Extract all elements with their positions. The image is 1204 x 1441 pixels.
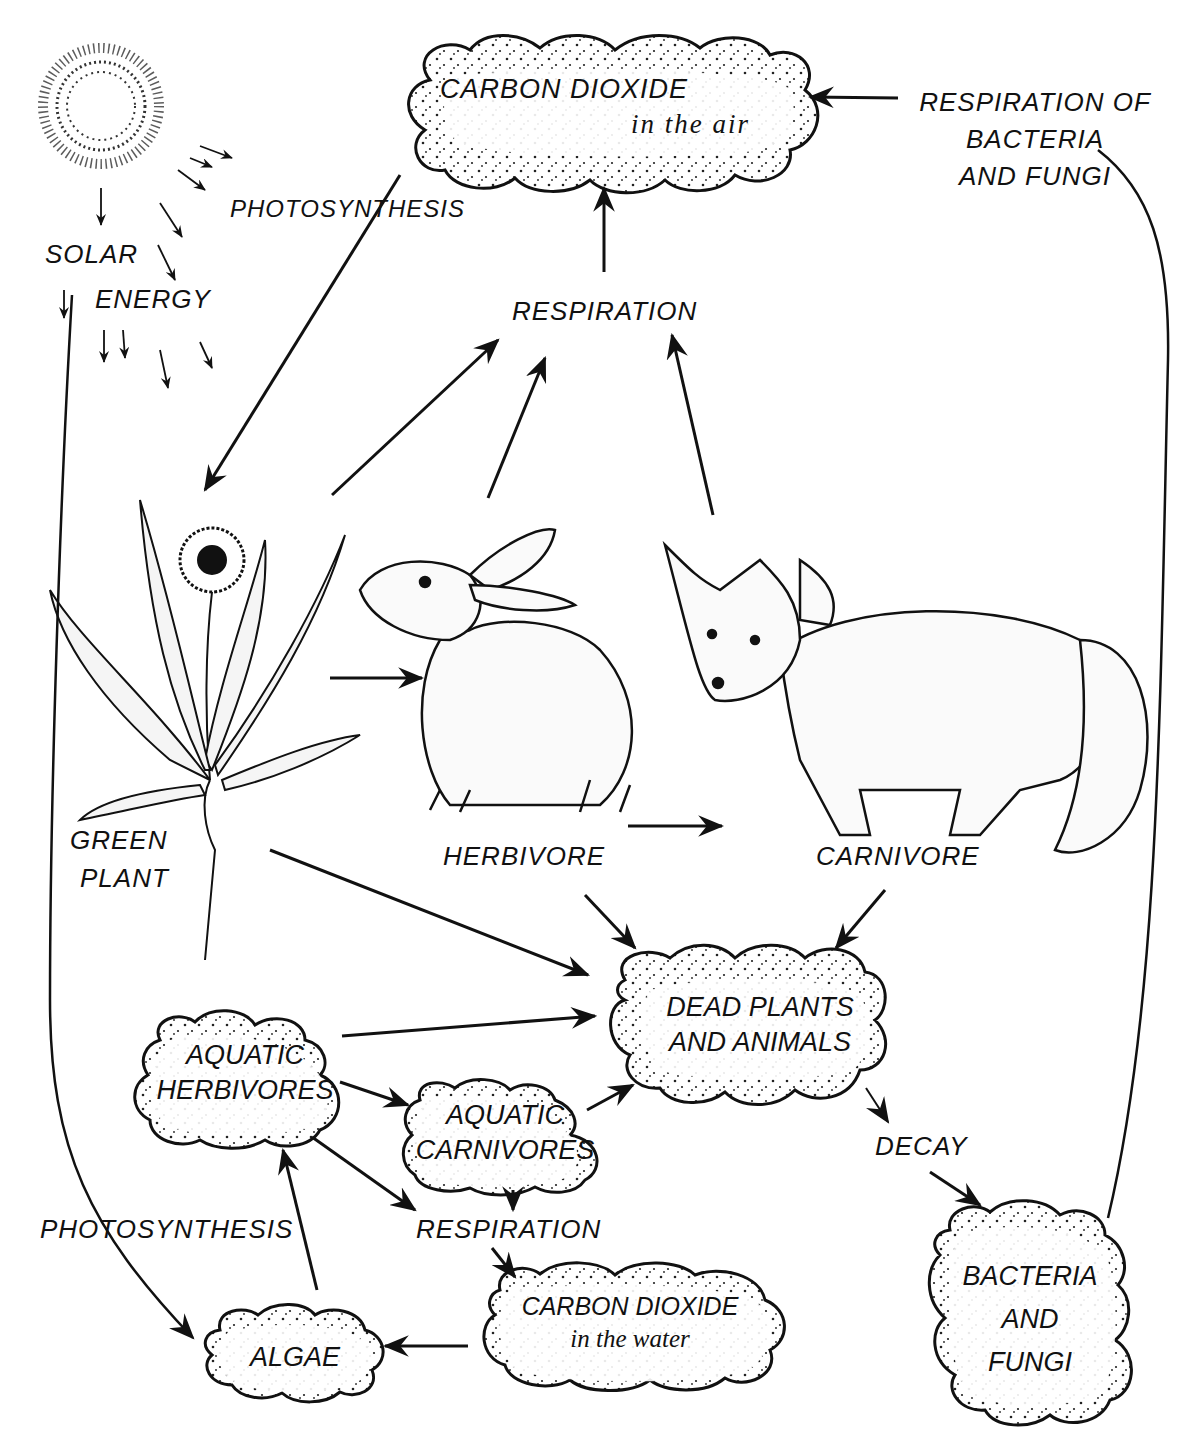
co2-air-text: CARBON DIOXIDE in the air: [440, 72, 780, 142]
arrow-carnivore-to-dead: [836, 890, 885, 948]
text-line: AND ANIMALS: [645, 1025, 875, 1060]
algae-text: ALGAE: [215, 1340, 375, 1375]
curve-solar-to-algae: [50, 295, 193, 1338]
label-herbivore: HERBIVORE: [443, 842, 605, 872]
carnivore-fox-illustration: [665, 545, 1148, 853]
label-respiration-water: RESPIRATION: [416, 1215, 601, 1245]
label-photosynthesis-land: PHOTOSYNTHESIS: [230, 195, 465, 223]
text-line: in the water: [495, 1323, 765, 1356]
aquatic-carnivores-text: AQUATIC CARNIVORES: [410, 1098, 600, 1168]
label-line: RESPIRATION OF: [905, 84, 1165, 121]
arrow-plant-to-respiration: [332, 340, 498, 495]
text-line: HERBIVORES: [150, 1073, 340, 1108]
arrow-aq-herbivores-to-aq-carnivores: [340, 1082, 408, 1105]
arrow-aq-herbivores-to-dead: [342, 1016, 595, 1036]
text-line: DEAD PLANTS: [645, 990, 875, 1025]
arrow-aq-herbivores-to-respiration: [312, 1137, 415, 1210]
text-line: AQUATIC: [410, 1098, 600, 1133]
text-line: ALGAE: [215, 1340, 375, 1375]
arrow-bacteria-respiration-to-co2-air: [810, 97, 898, 98]
co2-water-text: CARBON DIOXIDE in the water: [495, 1290, 765, 1355]
label-energy: ENERGY: [95, 285, 211, 315]
arrow-decay-to-bacteria: [930, 1172, 980, 1205]
text-line: in the air: [440, 107, 780, 142]
text-line: CARBON DIOXIDE: [495, 1290, 765, 1323]
label-solar: SOLAR: [45, 240, 138, 270]
label-respiration-of-bacteria-fungi: RESPIRATION OF BACTERIA AND FUNGI: [905, 84, 1165, 195]
sun-icon: [43, 48, 159, 164]
label-line: PLANT: [70, 860, 169, 898]
arrow-herbivore-to-respiration: [488, 358, 545, 498]
bacteria-fungi-text: BACTERIA AND FUNGI: [940, 1255, 1120, 1385]
text-line: FUNGI: [940, 1341, 1120, 1384]
arrow-carnivore-to-respiration: [672, 335, 713, 515]
label-photosynthesis-water: PHOTOSYNTHESIS: [40, 1215, 293, 1245]
label-carnivore: CARNIVORE: [816, 842, 980, 872]
text-line: BACTERIA: [940, 1255, 1120, 1298]
dead-plants-animals-text: DEAD PLANTS AND ANIMALS: [645, 990, 875, 1060]
label-decay: DECAY: [875, 1132, 968, 1162]
label-respiration-land: RESPIRATION: [512, 297, 697, 327]
label-line: AND FUNGI: [905, 158, 1165, 195]
label-line: BACTERIA: [905, 121, 1165, 158]
text-line: AND: [940, 1298, 1120, 1341]
line-dead-to-decay: [866, 1088, 888, 1122]
label-line: GREEN: [70, 822, 169, 860]
text-line: CARBON DIOXIDE: [440, 72, 780, 107]
text-line: CARNIVORES: [410, 1133, 600, 1168]
arrow-respiration-to-co2-water: [492, 1248, 515, 1277]
text-line: AQUATIC: [150, 1038, 340, 1073]
aquatic-herbivores-text: AQUATIC HERBIVORES: [150, 1038, 340, 1108]
label-green-plant: GREEN PLANT: [70, 822, 169, 897]
arrow-herbivore-to-dead: [585, 895, 635, 948]
herbivore-rabbit-illustration: [360, 529, 632, 812]
